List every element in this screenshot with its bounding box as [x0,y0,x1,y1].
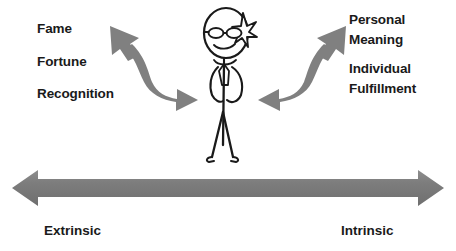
intrinsic-term-fulfillment: Fulfillment [349,82,416,96]
figure-torso [223,64,224,145]
axis-label-extrinsic: Extrinsic [44,224,101,238]
double-headed-horizontal-arrow-icon [12,170,444,206]
axis-label-intrinsic: Intrinsic [341,224,394,238]
figure-leg-right [223,112,233,157]
figure-glasses [204,28,242,38]
intrinsic-term-personal-meaning: Personal Meaning [349,13,416,46]
intrinsic-term-meaning: Meaning [349,33,416,47]
diagram-canvas: Fame Fortune Recognition Personal Meanin… [0,0,456,251]
extrinsic-term-fame: Fame [37,22,114,36]
curved-double-arrow-left-icon [110,26,198,111]
figure-foot-left [207,157,214,162]
figure-foot-right [231,157,238,162]
figure-leg-left [212,112,223,157]
extrinsic-term-fortune: Fortune [37,55,114,69]
extrinsic-terms-group: Fame Fortune Recognition [37,22,114,120]
intrinsic-terms-group: Personal Meaning Individual Fulfillment [349,13,416,101]
intrinsic-term-personal: Personal [349,13,416,27]
intrinsic-term-individual-fulfillment: Individual Fulfillment [349,62,416,95]
intrinsic-term-individual: Individual [349,62,416,76]
curved-double-arrow-right-icon [258,26,346,111]
stick-figure-person-icon [204,8,257,162]
extrinsic-term-recognition: Recognition [37,87,114,101]
